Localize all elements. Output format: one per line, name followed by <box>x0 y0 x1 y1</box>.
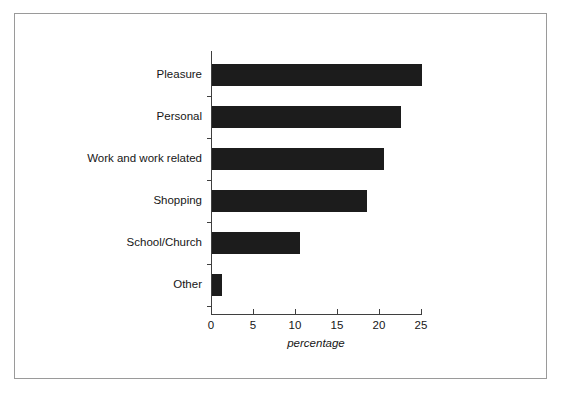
category-label-text: Personal <box>157 111 202 123</box>
x-axis-tick <box>337 309 338 314</box>
bar <box>212 148 384 170</box>
y-axis-tick <box>207 306 212 307</box>
figure: PleasurePersonalWork and work relatedSho… <box>0 0 564 396</box>
x-axis-line <box>211 314 422 315</box>
x-axis-tick-label: 15 <box>317 320 357 332</box>
category-label-text: Other <box>173 279 202 291</box>
bar <box>212 274 222 296</box>
bar <box>212 64 422 86</box>
bar <box>212 232 300 254</box>
category-label-text: Shopping <box>153 195 202 207</box>
x-axis-tick <box>211 309 212 314</box>
bar <box>212 106 401 128</box>
category-label-text: Pleasure <box>157 69 202 81</box>
y-axis-tick <box>207 222 212 223</box>
y-axis-tick <box>207 180 212 181</box>
bar-chart: PleasurePersonalWork and work relatedSho… <box>0 0 564 396</box>
x-axis-tick-label: 20 <box>359 320 399 332</box>
x-axis-tick-label: 25 <box>401 320 441 332</box>
x-axis-tick <box>379 309 380 314</box>
y-axis-tick <box>207 264 212 265</box>
y-axis-tick <box>207 96 212 97</box>
category-label-text: Work and work related <box>87 153 202 165</box>
x-axis-tick-label: 0 <box>191 320 231 332</box>
x-axis-tick-label: 10 <box>275 320 315 332</box>
x-axis-tick <box>253 309 254 314</box>
y-axis-tick <box>207 138 212 139</box>
x-axis-tick <box>295 309 296 314</box>
x-axis-tick-label: 5 <box>233 320 273 332</box>
x-axis-title: percentage <box>211 338 421 350</box>
x-axis-tick <box>421 309 422 314</box>
category-label-text: School/Church <box>127 237 202 249</box>
bar <box>212 190 367 212</box>
